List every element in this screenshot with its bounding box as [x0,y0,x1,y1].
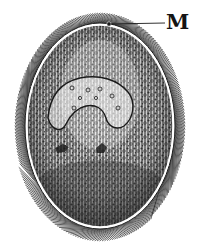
mouth-marker [107,22,111,26]
ciliate-illustration [0,0,200,245]
label-m: M [166,11,189,32]
